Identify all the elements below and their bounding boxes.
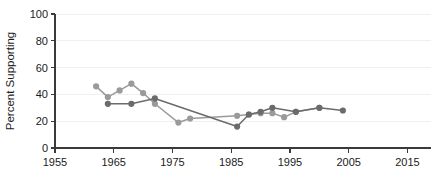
data-point-0-7 xyxy=(187,115,193,121)
series-dark-gray-series xyxy=(105,95,346,129)
x-tick-label-2015: 2015 xyxy=(395,156,419,168)
data-point-1-8 xyxy=(316,105,322,111)
x-tick-label-1975: 1975 xyxy=(160,156,184,168)
data-point-0-2 xyxy=(117,87,123,93)
y-tick-label-100: 100 xyxy=(30,8,48,20)
line-chart: 0204060801001955196519751985199520052015… xyxy=(0,0,438,178)
data-point-1-2 xyxy=(152,95,158,101)
data-point-0-5 xyxy=(152,101,158,107)
x-tick-label-2005: 2005 xyxy=(337,156,361,168)
series-line-1 xyxy=(108,98,343,126)
x-tick-label-1985: 1985 xyxy=(219,156,243,168)
chart-container: 0204060801001955196519751985199520052015… xyxy=(0,0,438,178)
data-point-1-1 xyxy=(128,101,134,107)
data-point-1-7 xyxy=(293,109,299,115)
x-tick-label-1965: 1965 xyxy=(102,156,126,168)
x-tick-label-1995: 1995 xyxy=(278,156,302,168)
y-tick-label-0: 0 xyxy=(42,142,48,154)
data-point-1-9 xyxy=(340,107,346,113)
data-point-0-0 xyxy=(93,83,99,89)
data-point-1-6 xyxy=(269,105,275,111)
y-tick-label-80: 80 xyxy=(36,35,48,47)
data-point-0-4 xyxy=(140,90,146,96)
data-point-0-11 xyxy=(269,110,275,116)
data-point-1-4 xyxy=(246,111,252,117)
data-point-0-6 xyxy=(175,119,181,125)
data-point-0-3 xyxy=(128,81,134,87)
data-point-1-3 xyxy=(234,123,240,129)
y-tick-label-20: 20 xyxy=(36,115,48,127)
y-axis-title: Percent Supporting xyxy=(4,32,16,130)
x-tick-label-1955: 1955 xyxy=(43,156,67,168)
data-point-1-0 xyxy=(105,101,111,107)
data-point-1-5 xyxy=(258,109,264,115)
y-tick-label-60: 60 xyxy=(36,62,48,74)
data-point-0-1 xyxy=(105,94,111,100)
y-tick-label-40: 40 xyxy=(36,88,48,100)
data-point-0-12 xyxy=(281,114,287,120)
data-point-0-8 xyxy=(234,113,240,119)
